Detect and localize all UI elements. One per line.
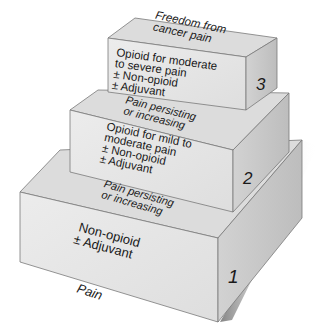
analgesic-ladder-diagram: Freedom from cancer pain Opioid for mode… [0, 0, 330, 332]
step-3-number: 3 [256, 75, 266, 94]
step-2-number: 2 [242, 169, 253, 188]
step-1-number: 1 [228, 266, 239, 287]
